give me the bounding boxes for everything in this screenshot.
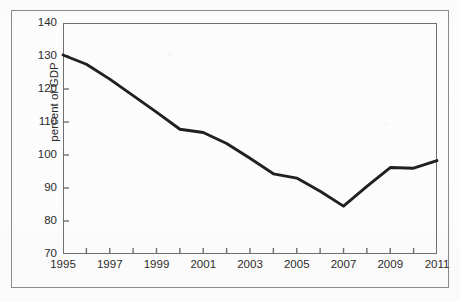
y-tick-label: 130 <box>38 50 57 62</box>
data-line-series <box>63 55 437 206</box>
y-tick-label: 110 <box>39 116 57 128</box>
x-tick-label: 1999 <box>144 259 170 271</box>
y-tick-label: 140 <box>38 17 57 29</box>
figure-page: percent of GDP 140130120110100908070 199… <box>0 0 460 301</box>
x-tick-label: 1995 <box>50 259 76 271</box>
x-axis-tick-labels: 199519971999200120032005200720092011 <box>63 259 437 275</box>
x-tick-label: 2005 <box>284 259 310 271</box>
y-tick-label: 120 <box>38 83 57 95</box>
y-tick-label: 100 <box>38 149 57 161</box>
y-tick-label: 80 <box>44 215 57 227</box>
line-chart-svg <box>63 23 437 254</box>
y-tick-label: 90 <box>44 182 57 194</box>
x-tick-label: 2001 <box>190 259 216 271</box>
x-tick-label: 2011 <box>425 259 450 271</box>
y-axis-ticks <box>63 56 69 221</box>
x-axis-ticks <box>86 248 413 254</box>
plot-area <box>63 23 437 254</box>
x-tick-label: 2007 <box>331 259 357 271</box>
x-tick-label: 2009 <box>377 259 403 271</box>
y-axis-tick-labels: 140130120110100908070 <box>24 23 57 254</box>
x-tick-label: 2003 <box>237 259 263 271</box>
x-tick-label: 1997 <box>97 259 123 271</box>
